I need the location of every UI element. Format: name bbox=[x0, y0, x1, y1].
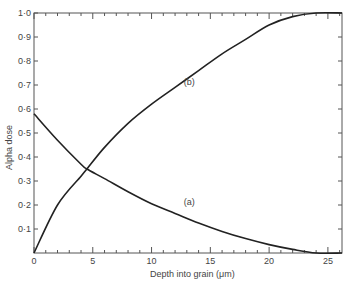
y-tick-label: 0·5 bbox=[18, 128, 31, 138]
y-tick-label: 0·8 bbox=[18, 56, 31, 66]
curve-label: (a) bbox=[184, 197, 195, 207]
curve-b bbox=[34, 13, 342, 253]
chart: 05101520250·10·20·30·40·50·60·70·80·91·0… bbox=[0, 0, 348, 283]
x-tick-label: 15 bbox=[205, 256, 215, 266]
y-tick-label: 0·7 bbox=[18, 80, 31, 90]
y-tick-label: 0·4 bbox=[18, 152, 31, 162]
plot-frame bbox=[34, 13, 342, 253]
y-tick-label: 0·3 bbox=[18, 176, 31, 186]
x-tick-label: 25 bbox=[323, 256, 333, 266]
x-axis-label: Depth into grain (μm) bbox=[150, 269, 235, 279]
y-tick-label: 1·0 bbox=[18, 8, 31, 18]
x-tick-label: 5 bbox=[90, 256, 95, 266]
y-tick-label: 0·9 bbox=[18, 32, 31, 42]
y-tick-label: 0·6 bbox=[18, 104, 31, 114]
y-tick-label: 0·1 bbox=[18, 224, 31, 234]
x-tick-label: 10 bbox=[147, 256, 157, 266]
x-tick-label: 0 bbox=[31, 256, 36, 266]
curve-a bbox=[34, 114, 342, 253]
curve-label: (b) bbox=[184, 77, 195, 87]
y-axis-label: Alpha dose bbox=[4, 125, 14, 170]
x-tick-label: 20 bbox=[264, 256, 274, 266]
y-tick-label: 0·2 bbox=[18, 200, 31, 210]
